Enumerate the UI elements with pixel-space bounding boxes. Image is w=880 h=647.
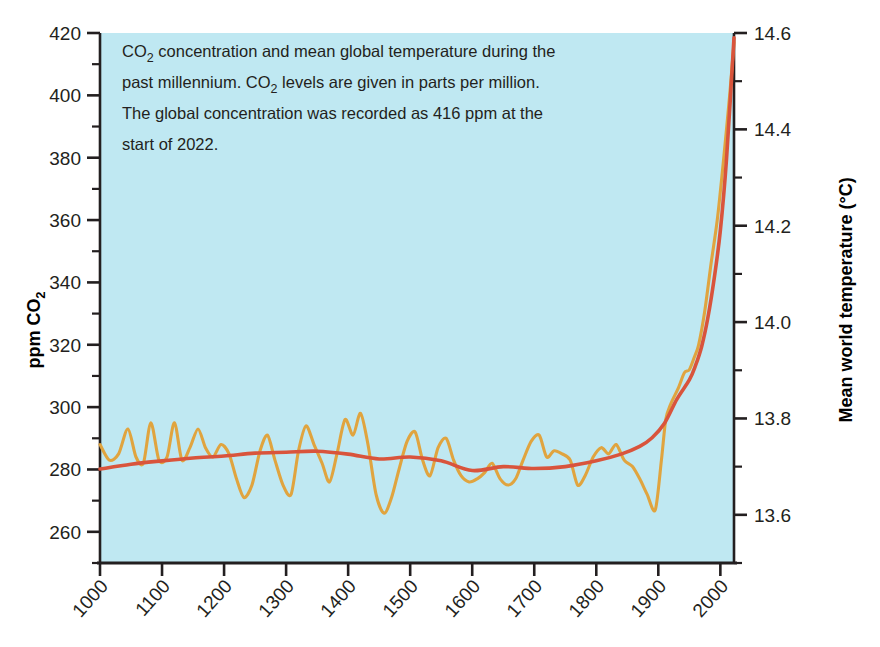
caption-line-4: start of 2022. [122, 135, 218, 153]
left-axis-title: ppm CO2 [24, 291, 48, 368]
co2-temperature-chart: 260280300320340360380400420 13.613.814.0… [0, 0, 880, 647]
right-axis-tick-labels: 13.613.814.014.214.414.6 [754, 23, 791, 526]
x-tick-label: 1200 [192, 576, 236, 621]
x-tick-label: 1100 [131, 576, 174, 620]
tick-label: 13.8 [754, 408, 791, 429]
left-axis-title-text: ppm CO [24, 299, 44, 369]
x-tick-label: 2000 [688, 576, 732, 621]
tick-label: 340 [49, 272, 81, 293]
right-axis-title-text: Mean world temperature (°C) [836, 177, 856, 422]
tick-label: 14.6 [754, 23, 791, 44]
svg-text:ppm CO2: ppm CO2 [24, 291, 48, 368]
tick-label: 360 [49, 210, 81, 231]
figure-container: 260280300320340360380400420 13.613.814.0… [0, 0, 880, 647]
x-tick-label: 1500 [378, 576, 422, 621]
x-tick-label: 1000 [68, 576, 112, 621]
x-tick-label: 1900 [626, 576, 670, 621]
tick-label: 13.6 [754, 505, 791, 526]
tick-label: 14.0 [754, 312, 791, 333]
tick-label: 400 [49, 85, 81, 106]
tick-label: 320 [49, 335, 81, 356]
tick-label: 380 [49, 148, 81, 169]
caption-line-3: The global concentration was recorded as… [122, 104, 543, 122]
tick-label: 300 [49, 397, 81, 418]
tick-label: 260 [49, 522, 81, 543]
left-axis-title-subscript: 2 [33, 291, 48, 298]
x-tick-label: 1800 [564, 576, 608, 621]
tick-label: 14.2 [754, 216, 791, 237]
x-tick-label: 1700 [502, 576, 546, 621]
x-axis-tick-labels: 1000110012001300140015001600170018001900… [68, 576, 732, 621]
x-tick-label: 1300 [254, 576, 298, 621]
left-axis-major-ticks [87, 33, 100, 532]
left-axis-tick-labels: 260280300320340360380400420 [49, 23, 81, 543]
tick-label: 14.4 [754, 119, 791, 140]
right-axis-title: Mean world temperature (°C) [836, 177, 856, 422]
tick-label: 280 [49, 459, 81, 480]
tick-label: 420 [49, 23, 81, 44]
x-tick-label: 1400 [316, 576, 360, 621]
x-axis-ticks [100, 563, 720, 576]
x-tick-label: 1600 [440, 576, 484, 621]
